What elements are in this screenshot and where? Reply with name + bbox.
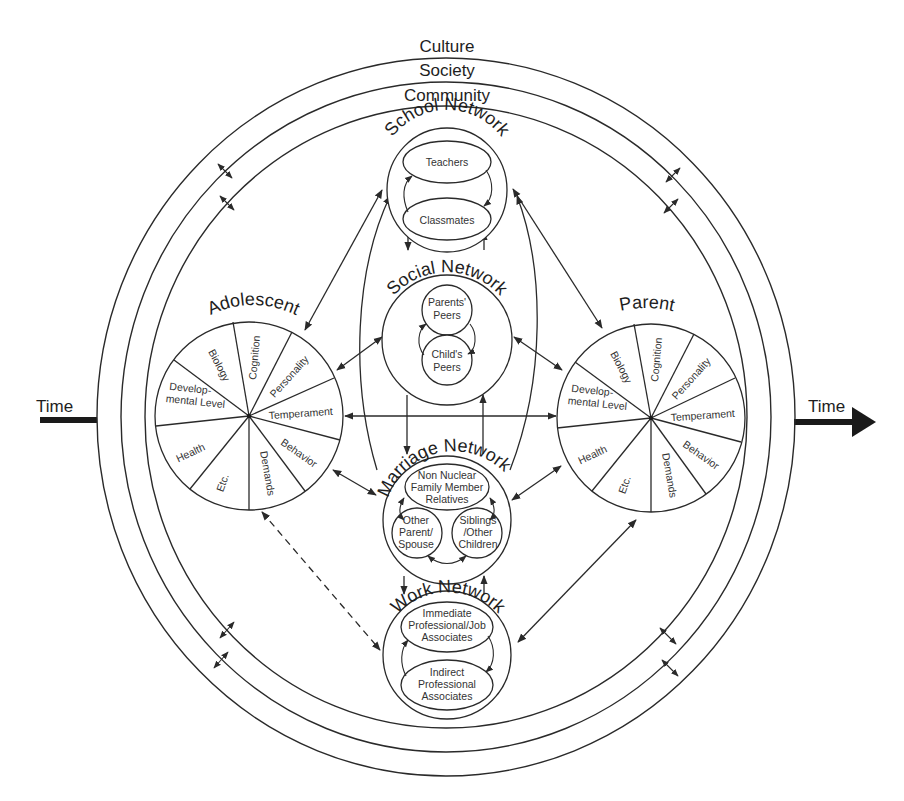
work-network: Work Network Immediate Professional/Job …: [383, 576, 511, 719]
adolescent-work-dashed-arrow: [262, 512, 380, 650]
parent-school-arrow: [513, 189, 602, 328]
parent-marriage-arrow: [512, 466, 561, 500]
other-parent-label-line2: Parent/: [399, 526, 433, 538]
time-label-right: Time: [808, 397, 845, 416]
immediate-label-line2: Professional/Job: [408, 619, 486, 631]
indirect-label-line1: Indirect: [430, 666, 465, 678]
siblings-label-line3: Children: [458, 538, 497, 550]
bioecological-model-diagram: Time Time Culture Society Community: [0, 0, 904, 801]
parent-title: Parent: [618, 292, 677, 315]
other-parent-label-line3: Spouse: [398, 538, 434, 550]
childs-peers-label-line1: Child's: [431, 348, 462, 360]
parents-peers-label-line1: Parents': [428, 296, 466, 308]
classmates-label: Classmates: [420, 214, 475, 226]
indirect-label-line2: Professional: [418, 678, 476, 690]
parent-work-arrow: [518, 520, 636, 642]
childs-peers-node: [422, 335, 472, 385]
society-label: Society: [419, 61, 475, 80]
immediate-label-line3: Associates: [422, 631, 473, 643]
parent-social-arrow: [514, 337, 562, 370]
relatives-label-line2: Family Member: [411, 481, 484, 493]
immediate-label-line1: Immediate: [422, 607, 471, 619]
indirect-label-line3: Associates: [422, 690, 473, 702]
relatives-label-line1: Non Nuclear: [418, 469, 477, 481]
social-network: Social Network Parents' Peers Child's Pe…: [382, 256, 512, 405]
parent-wheel: Parent Biology Cognition Personality Tem…: [557, 292, 745, 512]
culture-label: Culture: [420, 37, 475, 56]
time-arrowhead-icon: [852, 407, 876, 437]
childs-peers-label-line2: Peers: [433, 361, 460, 373]
siblings-label-line1: Siblings: [460, 514, 497, 526]
adolescent-school-arrow: [305, 190, 382, 330]
siblings-label-line2: /Other: [463, 526, 493, 538]
adolescent-wheel: Adolescent Biology Cognition Personality…: [155, 289, 343, 510]
time-axis-right: Time: [794, 397, 876, 437]
time-label-left: Time: [36, 397, 73, 416]
relatives-label-line3: Relatives: [425, 493, 468, 505]
adolescent-marriage-arrow: [333, 470, 376, 495]
other-parent-label-line1: Other: [403, 514, 430, 526]
adolescent-title: Adolescent: [204, 289, 303, 319]
parents-peers-label-line2: Peers: [433, 309, 460, 321]
teachers-label: Teachers: [426, 156, 469, 168]
marriage-network: Marriage Network Non Nuclear Family Memb…: [373, 435, 516, 584]
school-network: School Network Teachers Classmates: [380, 94, 514, 252]
time-axis-left: Time: [36, 397, 97, 420]
school-marriage-arc-right: [510, 196, 537, 470]
